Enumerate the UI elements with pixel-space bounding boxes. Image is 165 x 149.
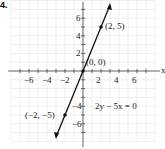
y-tick-label: 2 bbox=[76, 49, 81, 58]
x-tick-label: −2 bbox=[60, 76, 70, 85]
x-tick-label: 4 bbox=[114, 76, 119, 85]
point-label: (−2, −5) bbox=[25, 111, 55, 120]
equation-label: 2y − 5x = 0 bbox=[95, 102, 137, 111]
x-tick-label: −4 bbox=[42, 76, 52, 85]
point-label: (2, 5) bbox=[105, 22, 125, 31]
x-tick-label: 6 bbox=[132, 76, 137, 85]
x-tick-label: −6 bbox=[24, 76, 34, 85]
y-tick-label: −6 bbox=[72, 120, 82, 129]
y-tick-label: 6 bbox=[76, 14, 81, 23]
x-axis-label: x bbox=[161, 66, 165, 75]
y-tick-label: 4 bbox=[76, 32, 81, 41]
x-tick-label: 2 bbox=[96, 76, 101, 85]
y-tick-label: −4 bbox=[72, 102, 82, 111]
point-label: (0, 0) bbox=[86, 58, 106, 67]
